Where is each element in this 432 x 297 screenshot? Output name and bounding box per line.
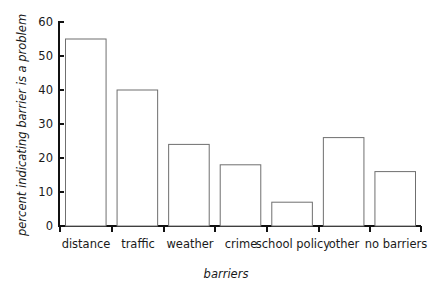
x-label-other: other xyxy=(329,237,360,251)
bar-weather[interactable] xyxy=(169,144,210,226)
y-tick-label-0: 0 xyxy=(46,219,53,233)
y-axis-title-group: percent indicating barrier is a problem xyxy=(15,14,29,237)
bar-school-policy[interactable] xyxy=(272,202,313,226)
x-axis-category-labels: distance traffic weather crime school po… xyxy=(62,237,428,251)
chart-canvas: percent indicating barrier is a problem … xyxy=(0,0,432,297)
bar-traffic[interactable] xyxy=(117,90,158,226)
y-tick-label-60: 60 xyxy=(38,15,53,29)
x-label-school-policy: school policy xyxy=(256,237,331,251)
y-tick-label-50: 50 xyxy=(38,49,53,63)
bar-no-barriers[interactable] xyxy=(375,172,416,226)
bars-group xyxy=(66,39,416,226)
y-tick-label-20: 20 xyxy=(38,151,53,165)
y-tick-label-30: 30 xyxy=(38,117,53,131)
bar-distance[interactable] xyxy=(66,39,107,226)
y-tick-label-10: 10 xyxy=(38,185,53,199)
x-label-no-barriers: no barriers xyxy=(365,237,428,251)
y-axis-tick-labels: 60 50 40 30 20 10 0 xyxy=(38,15,53,233)
y-tick-label-40: 40 xyxy=(38,83,53,97)
x-label-crime: crime xyxy=(225,237,258,251)
y-axis-title: percent indicating barrier is a problem xyxy=(15,14,29,237)
x-label-distance: distance xyxy=(62,237,111,251)
x-axis-title: barriers xyxy=(204,267,249,281)
x-label-traffic: traffic xyxy=(121,237,155,251)
bar-crime[interactable] xyxy=(220,165,261,226)
x-label-weather: weather xyxy=(166,237,213,251)
bar-other[interactable] xyxy=(323,138,364,226)
bar-chart-figure: percent indicating barrier is a problem … xyxy=(0,0,432,297)
